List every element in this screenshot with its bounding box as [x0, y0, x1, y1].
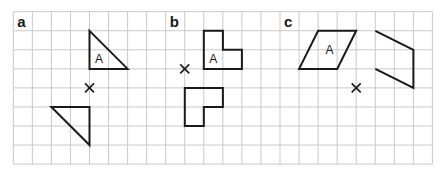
panel-a: a A	[17, 13, 127, 145]
rotation-grid-figure: a A b A c A	[0, 0, 443, 171]
shape-a-label: A	[95, 52, 103, 66]
shape-b-label: A	[209, 52, 217, 66]
panel-label-b: b	[170, 13, 179, 30]
shape-c-label: A	[326, 43, 334, 57]
panel-label-c: c	[284, 13, 292, 30]
panel-label-a: a	[17, 13, 26, 30]
panel-b: b A	[170, 13, 242, 126]
